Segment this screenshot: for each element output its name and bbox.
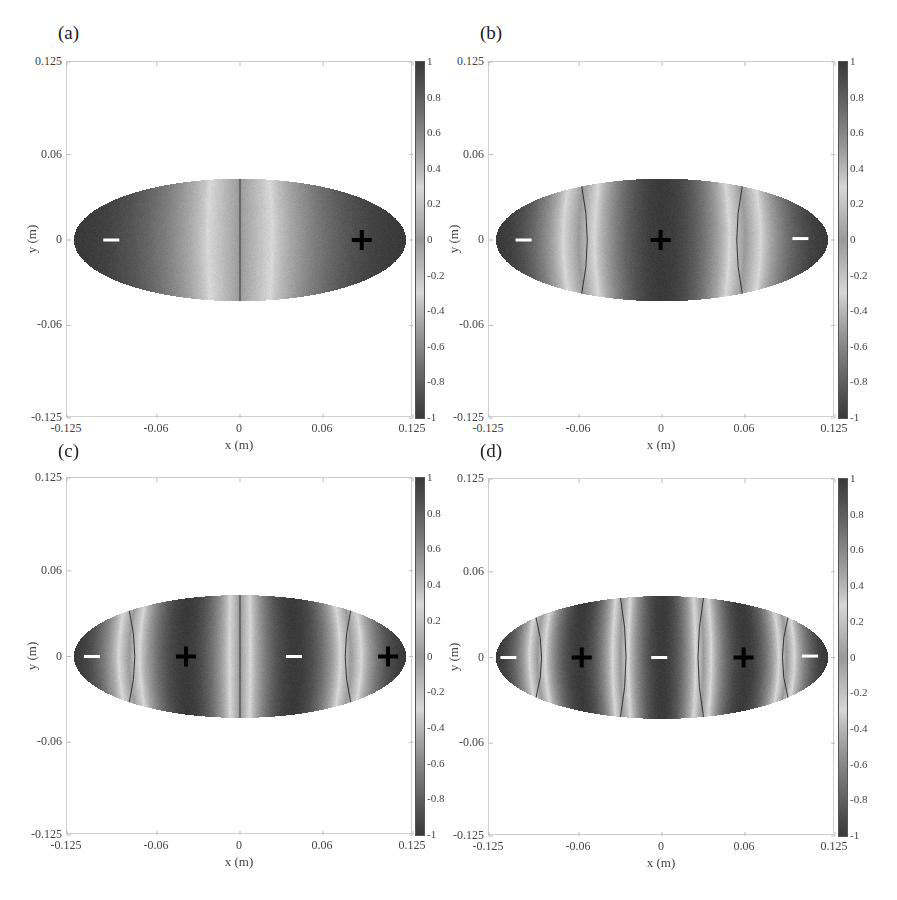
x-tick-label: 0.125 — [821, 839, 848, 854]
colorbar-tick-label: -1 — [427, 828, 436, 840]
colorbar-tick-label: 1 — [850, 55, 856, 67]
colorbar-tick-label: 0.4 — [850, 579, 864, 591]
y-axis-label: y (m) — [24, 641, 40, 670]
panel-a: (a)-0.125-0.0600.060.1250.1250.060-0.06-… — [0, 0, 448, 450]
panel-label: (d) — [480, 440, 502, 462]
y-tick-label: 0.06 — [463, 563, 484, 578]
colorbar-tick-label: 0.2 — [850, 197, 864, 209]
nodal-line — [698, 598, 704, 717]
colorbar-tick-label: 1 — [427, 471, 433, 483]
plot-overlay — [489, 62, 835, 418]
colorbar-tick-label: -0.2 — [850, 686, 867, 698]
colorbar — [415, 61, 425, 419]
y-axis-label: y (m) — [446, 225, 462, 254]
y-axis-label: y (m) — [446, 642, 462, 671]
plus-sign-marker — [378, 647, 398, 667]
nodal-line — [345, 611, 351, 703]
colorbar-tick-label: -0.8 — [427, 792, 444, 804]
plus-sign-marker — [352, 230, 372, 250]
colorbar-tick-label: 0.2 — [427, 197, 441, 209]
colorbar-tick-label: -0.6 — [427, 757, 444, 769]
colorbar-tick-label: -0.4 — [427, 304, 444, 316]
y-tick-label: 0.125 — [35, 470, 62, 485]
panel-d: (d)-0.125-0.0600.060.1250.1250.060-0.06-… — [448, 416, 897, 900]
y-tick-label: 0.06 — [41, 562, 62, 577]
colorbar-tick-label: -0.4 — [427, 721, 444, 733]
plus-sign-marker — [176, 647, 196, 667]
y-tick-label: -0.06 — [37, 734, 62, 749]
x-axis-label: x (m) — [225, 854, 254, 870]
x-tick-label: 0 — [658, 839, 664, 854]
plot-axes — [488, 478, 834, 835]
colorbar-tick-label: -0.2 — [427, 685, 444, 697]
plot-overlay — [67, 62, 413, 418]
nodal-line — [620, 598, 626, 717]
plus-sign-marker — [734, 648, 754, 668]
x-tick-label: -0.06 — [565, 839, 590, 854]
colorbar — [838, 61, 848, 419]
colorbar-tick-label: -0.2 — [427, 269, 444, 281]
y-tick-label: 0 — [56, 648, 62, 663]
colorbar-tick-label: 0.6 — [850, 126, 864, 138]
y-tick-label: -0.125 — [31, 827, 62, 842]
plot-overlay — [489, 479, 835, 836]
panel-label: (c) — [58, 440, 79, 462]
nodal-line — [737, 186, 743, 293]
colorbar-tick-label: -0.8 — [850, 375, 867, 387]
colorbar-tick-label: 0 — [850, 233, 856, 245]
colorbar-tick-label: 0 — [850, 651, 856, 663]
colorbar-tick-label: 0.6 — [427, 126, 441, 138]
colorbar-tick-label: -0.4 — [850, 722, 867, 734]
x-tick-label: 0 — [236, 838, 242, 853]
panel-label: (b) — [480, 22, 502, 44]
nodal-line — [582, 186, 588, 293]
colorbar-tick-label: -0.6 — [850, 758, 867, 770]
colorbar-tick-label: 0.2 — [427, 614, 441, 626]
y-axis-label: y (m) — [24, 225, 40, 254]
nodal-line — [782, 617, 788, 697]
colorbar-tick-label: -0.8 — [850, 793, 867, 805]
colorbar-tick-label: 1 — [427, 55, 433, 67]
colorbar-tick-label: 0.4 — [427, 162, 441, 174]
y-tick-label: 0.125 — [457, 471, 484, 486]
panel-label: (a) — [58, 22, 79, 44]
colorbar-tick-label: -0.8 — [427, 375, 444, 387]
colorbar-tick-label: -0.2 — [850, 269, 867, 281]
colorbar — [838, 478, 848, 837]
plot-axes — [66, 477, 412, 834]
plot-axes — [488, 61, 834, 417]
nodal-line — [129, 611, 135, 703]
x-tick-label: -0.06 — [143, 838, 168, 853]
colorbar-tick-label: -1 — [850, 829, 859, 841]
colorbar-tick-label: -0.4 — [850, 304, 867, 316]
y-tick-label: 0.125 — [457, 54, 484, 69]
colorbar-tick-label: 0 — [427, 650, 433, 662]
y-tick-label: 0 — [56, 232, 62, 247]
y-tick-label: -0.125 — [453, 828, 484, 843]
colorbar-tick-label: 0.6 — [427, 542, 441, 554]
colorbar-tick-label: -0.6 — [850, 340, 867, 352]
x-tick-label: 0.06 — [312, 838, 333, 853]
plus-sign-marker — [651, 230, 671, 250]
colorbar-tick-label: 0.8 — [427, 91, 441, 103]
colorbar-tick-label: 0.8 — [427, 507, 441, 519]
colorbar-tick-label: 0.4 — [850, 162, 864, 174]
nodal-line — [536, 617, 542, 697]
colorbar-tick-label: 0.6 — [850, 543, 864, 555]
x-tick-label: 0.06 — [734, 839, 755, 854]
colorbar-tick-label: 0 — [427, 233, 433, 245]
plus-sign-marker — [572, 648, 592, 668]
colorbar-tick-label: 0.8 — [850, 508, 864, 520]
colorbar-tick-label: -0.6 — [427, 340, 444, 352]
y-tick-label: 0.125 — [35, 54, 62, 69]
x-tick-label: 0.125 — [399, 838, 426, 853]
y-tick-label: -0.06 — [37, 317, 62, 332]
y-tick-label: 0 — [478, 649, 484, 664]
colorbar-tick-label: 1 — [850, 472, 856, 484]
y-tick-label: 0.06 — [463, 146, 484, 161]
y-tick-label: -0.06 — [459, 317, 484, 332]
colorbar — [415, 477, 425, 836]
y-tick-label: 0 — [478, 232, 484, 247]
x-axis-label: x (m) — [647, 855, 676, 871]
y-tick-label: 0.06 — [41, 146, 62, 161]
